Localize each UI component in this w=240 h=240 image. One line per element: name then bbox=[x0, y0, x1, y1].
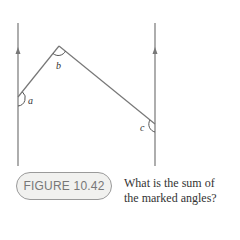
segment-b-to-c bbox=[59, 46, 155, 124]
segment-a-to-b bbox=[18, 46, 59, 97]
figure-caption: What is the sum of the marked angles? bbox=[124, 176, 217, 206]
angle-c-label: c bbox=[140, 122, 144, 133]
figure-label: FIGURE 10.42 bbox=[23, 179, 104, 193]
angle-a-label: a bbox=[28, 95, 33, 106]
right-arrow-icon bbox=[153, 47, 158, 54]
caption-line-1: What is the sum of bbox=[124, 176, 217, 191]
caption-line-2: the marked angles? bbox=[124, 191, 217, 206]
angle-a-arc bbox=[18, 92, 25, 106]
left-arrow-icon bbox=[16, 47, 21, 54]
angle-b-label: b bbox=[56, 60, 61, 71]
figure-label-badge: FIGURE 10.42 bbox=[16, 172, 112, 200]
